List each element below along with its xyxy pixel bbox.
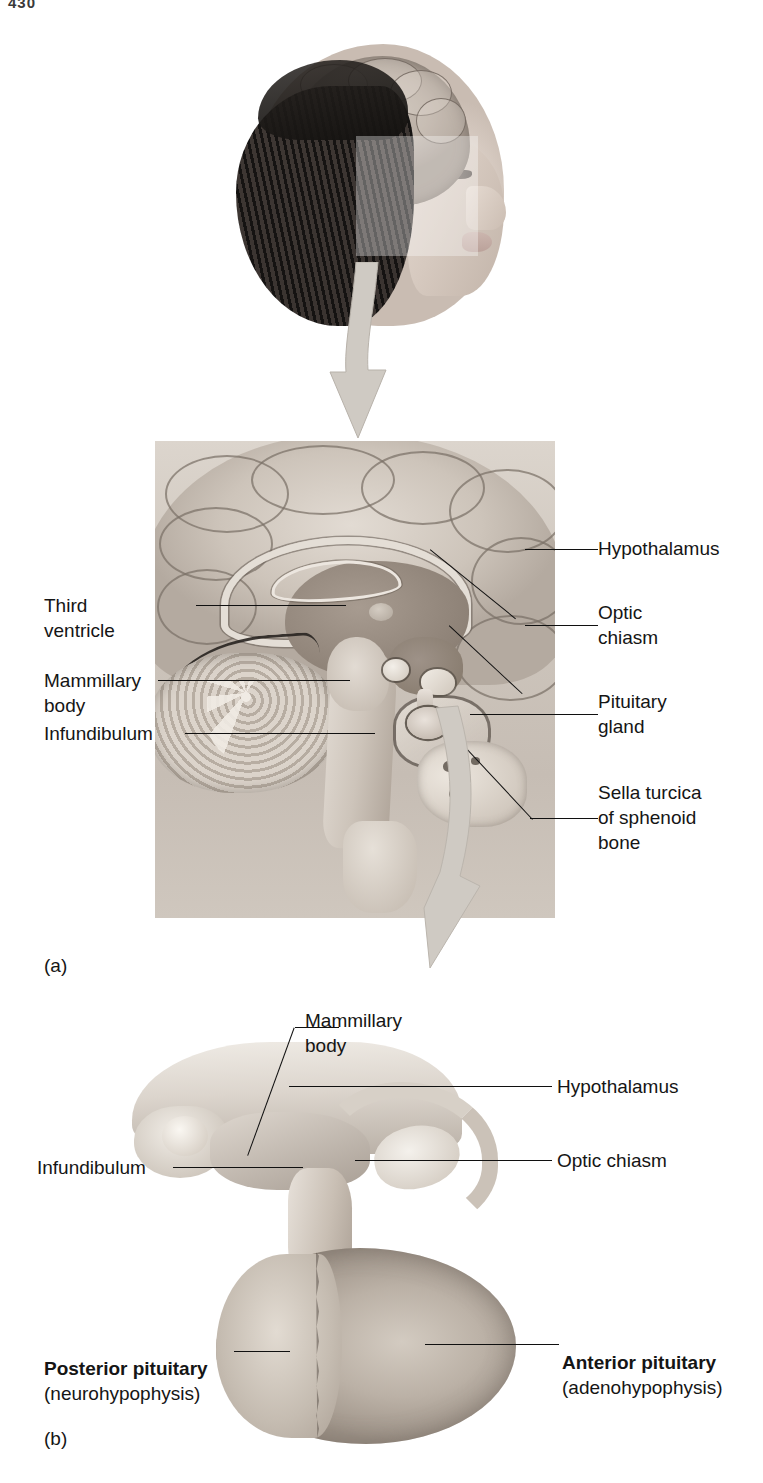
midbrain-pons	[327, 637, 389, 711]
anterior-pituitary-name: Anterior pituitary	[562, 1352, 716, 1373]
leader-posterior-pituitary	[234, 1351, 290, 1352]
posterior-pituitary-altname: (neurohypophysis)	[44, 1381, 208, 1406]
magnified-region-highlight	[356, 136, 478, 256]
label-optic-chiasm: Optic chiasm	[598, 600, 658, 650]
label-hypothalamus: Hypothalamus	[598, 536, 719, 561]
leader-mammillary-body	[158, 680, 350, 681]
label-hypothalamus-b: Hypothalamus	[557, 1074, 678, 1099]
figure-caption-a: (a)	[44, 955, 67, 977]
leader-infundibulum-b	[173, 1167, 303, 1168]
label-infundibulum-b: Infundibulum	[37, 1155, 146, 1180]
leader-hypothalamus-h	[525, 549, 598, 550]
label-infundibulum: Infundibulum	[44, 721, 153, 746]
label-anterior-pituitary: Anterior pituitary (adenohypophysis)	[562, 1325, 723, 1425]
arrow-head-to-brain	[322, 262, 422, 442]
mammillary-body-structure	[162, 1116, 208, 1156]
interthalamic-adhesion	[369, 603, 393, 621]
arbor-vitae	[207, 681, 285, 761]
label-mammillary-body: Mammillary body	[44, 668, 141, 718]
leader-third-ventricle	[196, 605, 346, 606]
leader-optic-chiasm-h	[525, 625, 598, 626]
label-pituitary-gland: Pituitary gland	[598, 689, 667, 739]
mammillary-body-structure	[383, 659, 409, 681]
nasal-cavity	[343, 821, 417, 913]
leader-infundibulum	[185, 733, 375, 734]
label-posterior-pituitary: Posterior pituitary (neurohypophysis)	[44, 1331, 208, 1431]
page-number: 430	[8, 0, 36, 11]
label-third-ventricle: Third ventricle	[44, 593, 115, 643]
leader-optic-chiasm-b	[355, 1160, 552, 1161]
label-optic-chiasm-b: Optic chiasm	[557, 1148, 667, 1173]
posterior-pituitary-name: Posterior pituitary	[44, 1358, 208, 1379]
anterior-pituitary-altname: (adenohypophysis)	[562, 1375, 723, 1400]
figure-caption-b: (b)	[44, 1428, 67, 1450]
figure-page: 430	[0, 0, 763, 1483]
label-mammillary-body-b: Mammillary body	[305, 1008, 402, 1058]
posterior-pituitary-lobe	[216, 1254, 342, 1438]
leader-anterior-pituitary	[425, 1344, 559, 1345]
arrow-brain-to-pituitary	[418, 700, 578, 1000]
label-sella-turcica: Sella turcica of sphenoid bone	[598, 780, 702, 855]
leader-hypothalamus-b	[289, 1086, 552, 1087]
